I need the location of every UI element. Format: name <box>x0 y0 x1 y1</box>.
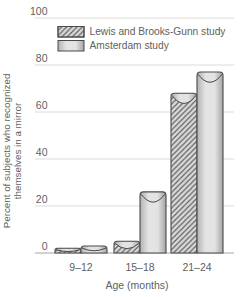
legend-swatch-solid <box>58 41 84 52</box>
mirror-recognition-figure: 0204060801009–1215–1821–24Age (months)Pe… <box>0 0 240 297</box>
x-axis-title: Age (months) <box>105 279 168 291</box>
legend-label-1: Lewis and Brooks-Gunn study <box>90 26 227 37</box>
bar-hatched-9-12 <box>55 248 81 253</box>
x-tick-label-3: 21–24 <box>182 261 211 273</box>
y-tick-label-80: 80 <box>36 52 48 64</box>
y-tick-label-60: 60 <box>36 99 48 111</box>
y-tick-label-0: 0 <box>42 240 48 252</box>
y-axis-title: Percent of subjects who recognizedthemse… <box>1 74 24 229</box>
bar-solid-15-18 <box>140 192 166 253</box>
y-tick-label-100: 100 <box>30 5 48 17</box>
x-tick-label-2: 15–18 <box>125 261 154 273</box>
bar-solid-9-12 <box>81 246 107 253</box>
legend-label-2: Amsterdam study <box>90 40 170 51</box>
bar-solid-21-24 <box>197 72 223 253</box>
bar-hatched-21-24 <box>171 93 197 253</box>
bar-chart: 0204060801009–1215–1821–24Age (months)Pe… <box>0 0 240 297</box>
y-tick-label-40: 40 <box>36 146 48 158</box>
x-tick-label-1: 9–12 <box>69 261 93 273</box>
bar-hatched-15-18 <box>114 241 140 253</box>
y-tick-label-20: 20 <box>36 193 48 205</box>
legend: Lewis and Brooks-Gunn studyAmsterdam stu… <box>58 26 226 51</box>
